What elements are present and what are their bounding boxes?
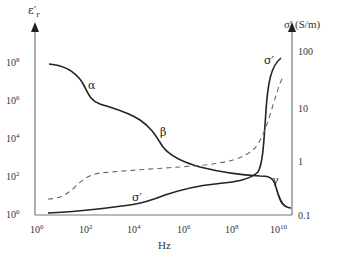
y-right-tick-1: 1 <box>298 156 303 167</box>
left-axis-title: ε′r <box>28 4 40 19</box>
y-left-tick-1e6: 106 <box>6 94 20 106</box>
y-right-tick-10: 10 <box>298 103 308 114</box>
permittivity-curve <box>49 64 291 208</box>
alpha-label: α <box>88 79 96 92</box>
y-left-tick-1e4: 104 <box>6 132 20 144</box>
y-left-tick-1e2: 102 <box>6 170 20 182</box>
y-left-tick-1e0: 100 <box>6 208 20 220</box>
chart: ε′r σ′ (S/m) 108 106 104 102 100 100 10 … <box>0 0 344 259</box>
y-left-tick-1e8: 108 <box>6 56 20 68</box>
y-right-tick-0.1: 0.1 <box>298 210 311 221</box>
x-tick-1e8: 108 <box>225 223 239 235</box>
x-tick-1e10: 1010 <box>270 223 288 235</box>
beta-label: β <box>160 126 166 139</box>
x-axis-title: Hz <box>158 239 171 251</box>
left-axis-arrow-icon <box>31 22 39 32</box>
x-tick-1e0: 100 <box>30 223 44 235</box>
sigma-top-label: σ′ <box>264 54 275 67</box>
x-tick-1e6: 106 <box>177 223 191 235</box>
x-tick-1e4: 104 <box>127 223 141 235</box>
sigma-bottom-label: σ′ <box>132 191 143 204</box>
y-right-tick-100: 100 <box>298 46 313 57</box>
x-tick-1e2: 102 <box>79 223 93 235</box>
right-axis-title: σ′ (S/m) <box>284 18 320 31</box>
gamma-label: γ <box>272 174 279 187</box>
